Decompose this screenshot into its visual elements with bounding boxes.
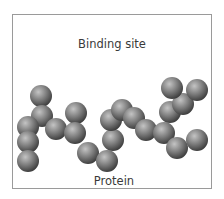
amino-acid-sphere xyxy=(45,118,67,140)
amino-acid-sphere xyxy=(65,102,87,124)
amino-acid-sphere xyxy=(186,79,208,101)
amino-acid-sphere xyxy=(17,150,39,172)
binding-site-label: Binding site xyxy=(78,37,146,51)
amino-acid-sphere xyxy=(30,85,52,107)
amino-acid-sphere xyxy=(96,150,118,172)
amino-acid-sphere xyxy=(166,137,188,159)
amino-acid-sphere xyxy=(161,77,183,99)
protein-chain xyxy=(0,0,224,199)
amino-acid-sphere xyxy=(102,129,124,151)
amino-acid-sphere xyxy=(17,131,39,153)
amino-acid-sphere xyxy=(77,142,99,164)
amino-acid-sphere xyxy=(64,122,86,144)
amino-acid-sphere xyxy=(186,129,208,151)
protein-label: Protein xyxy=(94,174,134,188)
